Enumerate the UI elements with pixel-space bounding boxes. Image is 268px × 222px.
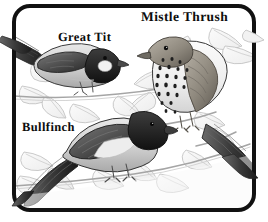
mistle-thrush-eye-highlight (166, 47, 167, 48)
framed-artwork (0, 6, 258, 210)
illustration-canvas (0, 0, 268, 222)
bullfinch-eye-highlight (152, 123, 153, 124)
label-great-tit: Great Tit (58, 31, 111, 44)
great-tit-cheek-patch (98, 61, 112, 72)
bullfinch-eye (150, 122, 154, 126)
label-bullfinch: Bullfinch (22, 121, 75, 134)
label-mistle-thrush: Mistle Thrush (141, 10, 228, 24)
bird-illustration-figure: Mistle Thrush Great Tit Bullfinch (0, 0, 268, 222)
great-tit-eye (103, 56, 107, 60)
mistle-thrush-eye (164, 46, 168, 50)
